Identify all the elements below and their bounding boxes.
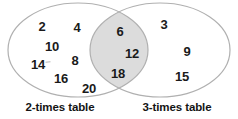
venn-value-left: 14 <box>31 58 45 71</box>
venn-value-intersection: 18 <box>111 67 125 80</box>
right-set-label: 3-times table <box>142 102 211 114</box>
venn-value-right: 15 <box>175 70 189 83</box>
venn-value-left: 16 <box>54 72 68 85</box>
venn-value-left: 2 <box>38 20 45 33</box>
venn-value-right: 9 <box>183 45 190 58</box>
venn-value-left: 4 <box>73 21 80 34</box>
venn-value-intersection: 12 <box>125 47 139 60</box>
venn-value-left: 20 <box>82 82 96 95</box>
venn-value-left: 10 <box>45 40 59 53</box>
left-set-label: 2-times table <box>25 102 94 114</box>
venn-value-right: 3 <box>160 18 167 31</box>
venn-value-left: 8 <box>71 54 78 67</box>
venn-diagram: 24108141620 61218 3915 2-times table 3-t… <box>0 0 238 119</box>
venn-value-intersection: 6 <box>116 25 123 38</box>
